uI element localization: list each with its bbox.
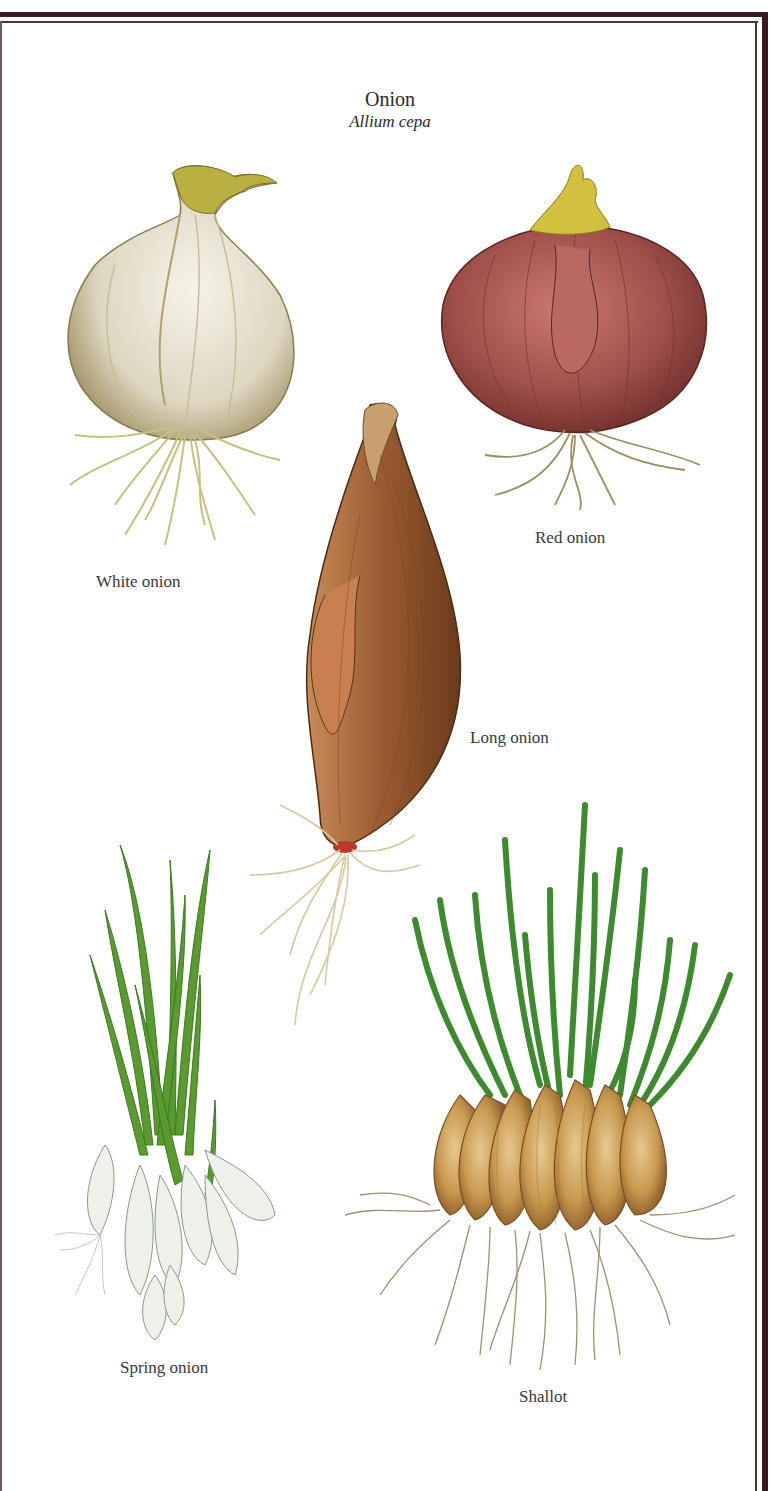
caption-red-onion: Red onion — [535, 528, 605, 548]
frame-top-border — [0, 12, 768, 17]
frame-inner-left-line — [0, 21, 2, 1491]
plate-title: Onion — [300, 88, 480, 111]
frame-inner-top-line — [0, 21, 758, 23]
caption-white-onion: White onion — [96, 572, 181, 592]
frame-inner-right-line — [755, 21, 757, 1491]
caption-shallot: Shallot — [519, 1387, 567, 1407]
caption-long-onion: Long onion — [470, 728, 549, 748]
shallot-illustration — [340, 795, 740, 1375]
spring-onion-illustration — [45, 835, 285, 1345]
frame-right-border — [762, 12, 768, 1491]
red-onion-illustration — [435, 155, 715, 515]
caption-spring-onion: Spring onion — [120, 1358, 208, 1378]
plate-scientific-name: Allium cepa — [300, 112, 480, 132]
